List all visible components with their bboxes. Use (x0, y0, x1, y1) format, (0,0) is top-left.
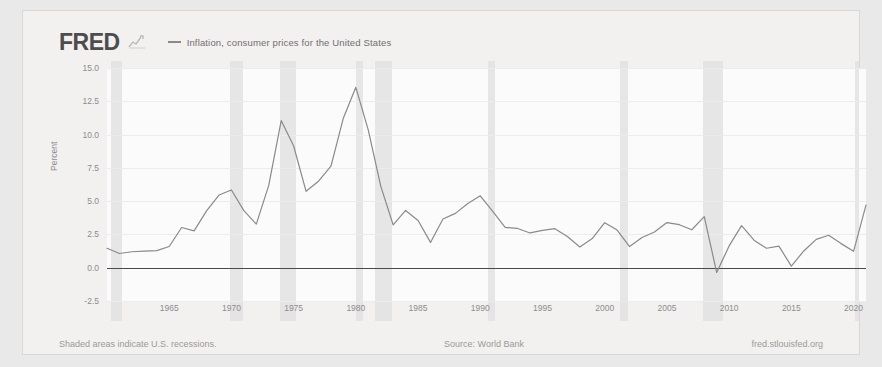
x-tick-label: 1965 (160, 303, 179, 313)
x-tick-label: 1970 (222, 303, 241, 313)
x-tick-label: 2005 (657, 303, 676, 313)
y-tick-label: -2.5 (84, 296, 99, 306)
fred-logo[interactable]: FRED (59, 31, 120, 54)
legend-swatch-series-1 (168, 41, 181, 43)
x-tick-label: 1985 (409, 303, 428, 313)
y-tick-label: 12.5 (82, 96, 99, 106)
y-tick-label: 10.0 (82, 130, 99, 140)
x-tick-label: 1990 (471, 303, 490, 313)
grid-line (107, 301, 866, 302)
y-axis-ticks: 15.012.510.07.55.02.50.0-2.5 (69, 68, 99, 301)
plot-area (107, 68, 866, 301)
x-tick-label: 1980 (346, 303, 365, 313)
footer-source: Source: World Bank (217, 339, 752, 349)
x-tick-label: 1995 (533, 303, 552, 313)
x-tick-label: 2000 (595, 303, 614, 313)
footer-site-url[interactable]: fred.stlouisfed.org (751, 339, 823, 349)
x-tick-label: 1975 (284, 303, 303, 313)
x-axis-ticks: 1965197019751980198519901995200020052010… (107, 303, 866, 319)
y-tick-label: 5.0 (87, 196, 99, 206)
fred-chart-screenshot: FRED Inflation, consumer prices for the … (0, 0, 882, 367)
y-tick-label: 15.0 (82, 63, 99, 73)
x-tick-label: 2015 (782, 303, 801, 313)
x-tick-label: 2020 (844, 303, 863, 313)
x-tick-label: 2010 (720, 303, 739, 313)
y-tick-label: 0.0 (87, 263, 99, 273)
series-line-inflation[interactable] (107, 68, 866, 301)
footer-recession-note: Shaded areas indicate U.S. recessions. (59, 339, 217, 349)
chart-card: FRED Inflation, consumer prices for the … (22, 10, 860, 355)
y-tick-label: 7.5 (87, 163, 99, 173)
y-axis-label: Percent (49, 142, 59, 171)
chart-footer: Shaded areas indicate U.S. recessions. S… (59, 339, 823, 349)
legend-label-series-1[interactable]: Inflation, consumer prices for the Unite… (187, 37, 392, 48)
chart-header: FRED Inflation, consumer prices for the … (59, 30, 391, 54)
series-path (107, 87, 866, 272)
chart-legend: Inflation, consumer prices for the Unite… (168, 37, 392, 48)
y-tick-label: 2.5 (87, 229, 99, 239)
chart-squiggle-icon (128, 35, 146, 49)
